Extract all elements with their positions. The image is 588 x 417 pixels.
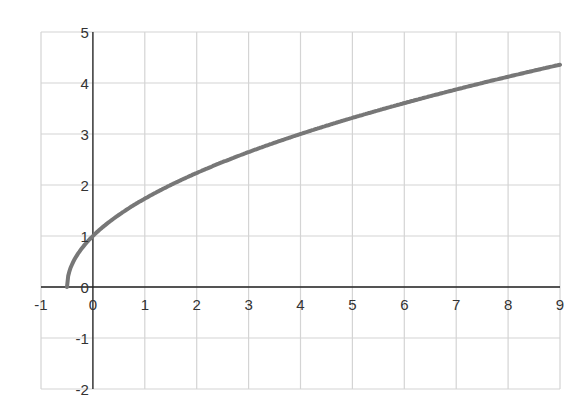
y-tick-label: 0	[81, 279, 89, 296]
gridlines	[41, 32, 560, 389]
x-tick-labels: -10123456789	[34, 296, 564, 313]
x-tick-label: 1	[141, 296, 149, 313]
y-tick-label: 1	[81, 228, 89, 245]
y-tick-label: -2	[76, 381, 89, 398]
y-tick-label: 2	[81, 177, 89, 194]
data-series	[67, 65, 560, 287]
sqrt-curve	[67, 65, 560, 287]
x-tick-label: -1	[34, 296, 47, 313]
x-tick-label: 5	[348, 296, 356, 313]
chart: -10123456789 543210-1-2	[0, 0, 588, 417]
x-tick-label: 2	[193, 296, 201, 313]
x-tick-label: 9	[556, 296, 564, 313]
x-tick-label: 4	[296, 296, 304, 313]
x-tick-label: 7	[452, 296, 460, 313]
y-tick-label: 3	[81, 126, 89, 143]
y-tick-label: -1	[76, 330, 89, 347]
y-tick-labels: 543210-1-2	[76, 24, 89, 398]
x-tick-label: 8	[504, 296, 512, 313]
x-tick-label: 0	[89, 296, 97, 313]
y-tick-label: 5	[81, 24, 89, 41]
x-tick-label: 6	[400, 296, 408, 313]
y-tick-label: 4	[81, 75, 89, 92]
x-tick-label: 3	[244, 296, 252, 313]
